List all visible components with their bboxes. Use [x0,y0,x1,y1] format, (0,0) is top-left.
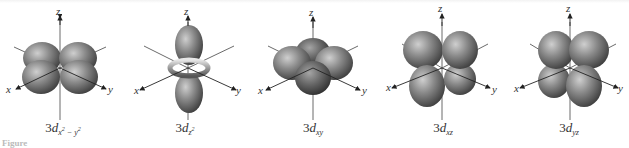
z-axis-label: z [184,6,188,17]
orbital-panel-dx2-y2: z x y 3dx2 − y2 Figure [0,0,126,148]
orbital-panel-dxz: z x y 3dxz [372,0,498,148]
y-axis-label: y [108,84,113,95]
y-axis-label: y [362,85,367,96]
orbital-label-dxy: 3dxy [250,120,376,137]
x-axis-label: x [6,84,11,95]
z-axis-label: z [56,6,60,17]
z-axis-label: z [309,7,313,18]
orbital-label-dx2-y2: 3dx2 − y2 [0,120,126,137]
x-axis-label: x [386,82,391,93]
orbital-label-dz2: 3dz2 [122,120,248,137]
y-axis-label: y [492,84,497,95]
orbital-panel-dyz: z x y 3dyz [500,0,626,148]
orbital-panel-dxy: z x y 3dxy [250,0,376,148]
orbital-label-dxz: 3dxz [380,120,506,137]
x-axis-label: x [514,83,519,94]
orbital-panel-dz2: z x y 3dz2 [122,0,248,148]
orbital-label-dyz: 3dyz [506,120,629,137]
figure-caption-fragment: Figure [2,138,27,148]
y-axis-label: y [618,83,623,94]
z-axis-label: z [566,3,570,14]
x-axis-label: x [258,85,263,96]
x-axis-label: x [134,85,139,96]
y-axis-label: y [236,85,241,96]
z-axis-label: z [438,3,442,14]
